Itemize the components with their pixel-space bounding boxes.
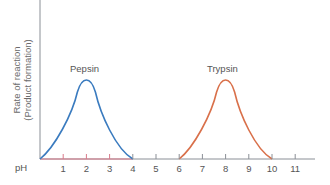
- pepsin-curve: [40, 80, 133, 159]
- x-tick-label: 1: [61, 163, 66, 174]
- axes: [40, 0, 315, 159]
- x-tick-label: 5: [153, 163, 158, 174]
- x-tick-label: 3: [107, 163, 112, 174]
- x-tick-label: 6: [177, 163, 182, 174]
- x-tick-label: 11: [290, 163, 300, 174]
- x-tick-label: 8: [223, 163, 228, 174]
- trypsin-curve: [179, 80, 272, 159]
- enzyme-ph-chart: 1234567891011: [0, 0, 330, 185]
- x-axis-label: pH: [15, 162, 27, 173]
- x-tick-label: 7: [200, 163, 205, 174]
- x-tick-label: 4: [130, 163, 135, 174]
- trypsin-label: Trypsin: [207, 63, 238, 74]
- x-tick-label: 2: [84, 163, 89, 174]
- y-axis-label: Rate of reaction (Product formation): [2, 0, 42, 160]
- x-tick-label: 10: [267, 163, 278, 174]
- pepsin-label: Pepsin: [70, 63, 99, 74]
- curves: [40, 80, 272, 159]
- y-axis-label-line1: Rate of reaction: [11, 39, 22, 120]
- y-axis-label-line2: (Product formation): [22, 39, 33, 120]
- x-tick-label: 9: [246, 163, 251, 174]
